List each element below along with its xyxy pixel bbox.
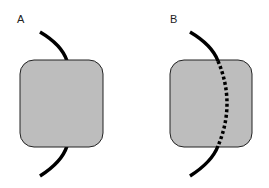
curve-b-bottom — [190, 146, 218, 176]
curve-b-top — [190, 32, 218, 61]
diagram-canvas: A B — [0, 0, 269, 188]
curve-a-bottom — [40, 146, 67, 176]
curve-a-top — [40, 32, 67, 61]
panel-a: A — [17, 13, 103, 176]
box-b — [170, 60, 252, 147]
panel-b-label: B — [170, 13, 177, 25]
panel-a-label: A — [17, 13, 25, 25]
panel-b: B — [170, 13, 252, 176]
box-a — [20, 60, 103, 147]
